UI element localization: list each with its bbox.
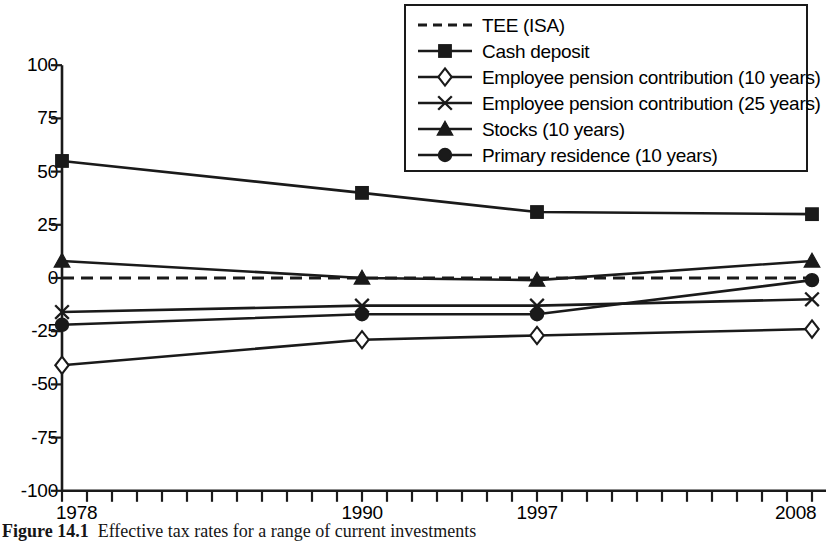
legend-item-label: Primary residence (10 years) [482, 146, 718, 165]
figure-container: 1007550250-25-50-75-100 1978199019972008… [0, 0, 828, 541]
legend-marker-icon [416, 118, 474, 140]
series-marker [531, 206, 543, 218]
series-marker [805, 320, 818, 337]
series-marker [530, 327, 543, 344]
data-series [55, 320, 818, 373]
series-line [62, 329, 812, 365]
legend-item-label: TEE (ISA) [482, 16, 565, 35]
legend-item[interactable]: Primary residence (10 years) [406, 142, 806, 168]
chart-legend: TEE (ISA)Cash depositEmployee pension co… [404, 4, 808, 172]
series-line [62, 299, 812, 312]
legend-marker-icon [416, 144, 474, 166]
legend-item-label: Employee pension contribution (10 years) [482, 68, 821, 87]
series-marker [56, 318, 69, 331]
legend-marker [438, 68, 451, 85]
legend-item-label: Stocks (10 years) [482, 120, 625, 139]
series-marker [56, 155, 68, 167]
legend-marker-icon [416, 92, 474, 114]
series-marker [356, 308, 369, 321]
series-marker [806, 274, 819, 287]
series-marker [806, 208, 818, 220]
legend-item[interactable]: TEE (ISA) [406, 12, 806, 38]
figure-caption: Figure 14.1 Effective tax rates for a ra… [2, 522, 826, 541]
legend-item-label: Cash deposit [482, 42, 589, 61]
series-marker [356, 187, 368, 199]
legend-item-label: Employee pension contribution (25 years) [482, 94, 821, 113]
series-marker [531, 308, 544, 321]
caption-text: Effective tax rates for a range of curre… [98, 522, 477, 541]
legend-marker-icon [416, 40, 474, 62]
series-marker [355, 331, 368, 348]
legend-item[interactable]: Employee pension contribution (25 years) [406, 90, 806, 116]
legend-item[interactable]: Stocks (10 years) [406, 116, 806, 142]
series-marker [55, 357, 68, 374]
legend-marker [439, 45, 451, 57]
data-series [54, 253, 820, 286]
caption-label: Figure 14.1 [2, 522, 89, 541]
legend-marker-icon [416, 14, 474, 36]
legend-marker [439, 149, 452, 162]
legend-item[interactable]: Employee pension contribution (10 years) [406, 64, 806, 90]
legend-item[interactable]: Cash deposit [406, 38, 806, 64]
legend-marker-icon [416, 66, 474, 88]
